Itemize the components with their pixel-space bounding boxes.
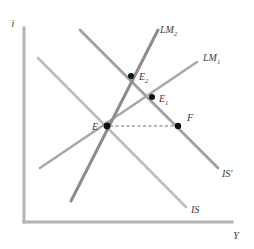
curve-is — [38, 58, 186, 207]
point-label-E2-sub: 2 — [145, 77, 149, 84]
point-label-E1: E1 — [158, 93, 168, 106]
y-axis-label: i — [12, 18, 15, 29]
curve-lm1 — [40, 62, 197, 168]
point-label-E: E — [91, 121, 98, 132]
point-label-F: F — [186, 112, 194, 123]
x-axis-label: Y — [233, 230, 240, 241]
curve-label-lm2: LM2 — [159, 24, 178, 37]
curve-lm2 — [71, 30, 158, 201]
point-label-E2: E2 — [138, 71, 149, 84]
curve-label-lm1-sub: 1 — [217, 58, 220, 65]
curve-label-is-prime: IS′ — [221, 168, 233, 179]
point-E2 — [128, 73, 134, 79]
point-label-E1-text: E — [158, 93, 165, 104]
curve-label-is: IS — [190, 204, 199, 215]
point-label-E1-sub: 1 — [165, 99, 168, 106]
is-lm-diagram: i Y LM2 LM1 IS′ IS E E1 E2 F — [0, 0, 254, 249]
curve-label-lm2-sub: 2 — [174, 30, 178, 37]
axes-group — [24, 28, 232, 222]
curve-label-lm1-text: LM — [202, 52, 218, 63]
point-E1 — [149, 94, 155, 100]
point-F — [175, 123, 181, 129]
point-label-E2-text: E — [138, 71, 145, 82]
curve-label-lm1: LM1 — [202, 52, 220, 65]
curve-label-lm2-text: LM — [159, 24, 175, 35]
point-E — [104, 123, 111, 130]
